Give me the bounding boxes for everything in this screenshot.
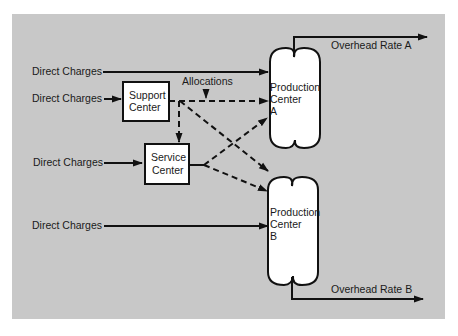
allocations-label: Allocations — [182, 75, 233, 87]
support-center: Support Center — [123, 82, 169, 121]
production-center-b: Production Center B — [268, 177, 320, 285]
production-center-b-label-2: Center — [270, 218, 302, 230]
direct-charges-label-2: Direct Charges — [32, 92, 102, 104]
direct-charges-label-4: Direct Charges — [32, 219, 102, 231]
support-center-label-1: Support — [129, 89, 166, 101]
cost-allocation-diagram: Direct Charges Direct Charges Direct Cha… — [0, 0, 458, 336]
service-center: Service Center — [145, 144, 189, 184]
production-center-a: Production Center A — [270, 48, 320, 148]
production-center-b-label-1: Production — [270, 206, 320, 218]
support-center-label-2: Center — [129, 101, 161, 113]
direct-charges-label-3: Direct Charges — [33, 156, 103, 168]
production-center-b-label-3: B — [270, 230, 277, 242]
production-center-a-label-3: A — [270, 105, 277, 117]
service-center-label-1: Service — [151, 151, 186, 163]
direct-charges-label-1: Direct Charges — [32, 65, 102, 77]
production-center-a-label-2: Center — [270, 93, 302, 105]
production-center-a-label-1: Production — [270, 81, 320, 93]
overhead-rate-a-label: Overhead Rate A — [331, 39, 412, 51]
overhead-rate-b-label: Overhead Rate B — [331, 283, 412, 295]
service-center-label-2: Center — [152, 164, 184, 176]
